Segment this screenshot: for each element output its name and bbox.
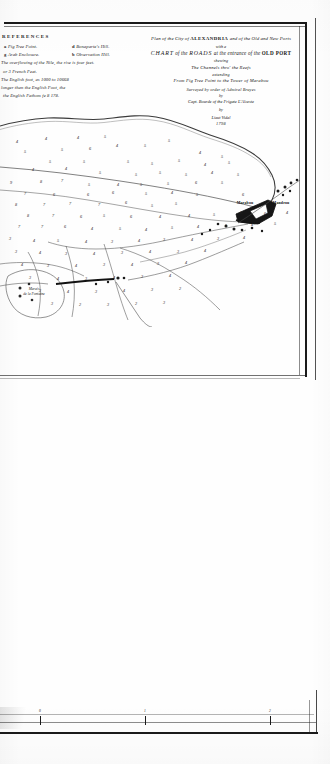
sounding-depth: 5 <box>49 159 51 164</box>
legend-entry-d: dBonaparte's Hill. <box>72 44 140 50</box>
sounding-depth: 4 <box>243 235 245 240</box>
sounding-depth: 4 <box>57 276 59 281</box>
sounding-depth: 7 <box>18 224 20 229</box>
legend-entry-b: bObservation Hill. <box>72 52 140 58</box>
sounding-depth: 6 <box>87 192 89 197</box>
sounding-depth: 3 <box>177 249 179 254</box>
legend-note-english-foot: The English foot, as 1000 to 10668 <box>0 77 140 83</box>
sounding-depth: 4 <box>45 136 47 141</box>
sounding-depth: 3 <box>151 287 153 292</box>
title-extending: extending <box>146 72 296 77</box>
sounding-depth: 6 <box>195 180 197 185</box>
sounding-depth: 3 <box>9 236 11 241</box>
sounding-depth: 2 <box>135 301 137 306</box>
sounding-depth: 7 <box>52 213 54 218</box>
sounding-depth: 3 <box>163 237 165 242</box>
sounding-depth: 4 <box>251 222 253 227</box>
sounding-depth: 4 <box>85 239 87 244</box>
sounding-depth: 5 <box>140 182 142 187</box>
sounding-depth: 5 <box>167 181 169 186</box>
sounding-depth: 5 <box>151 161 153 166</box>
sounding-depth: 4 <box>197 224 199 229</box>
sounding-depth: 4 <box>159 214 161 219</box>
sounding-depth: 5 <box>221 154 223 159</box>
title-chart-at: at the entrance of the <box>212 50 261 56</box>
sounding-depth: 5 <box>145 191 147 196</box>
sounding-depth: 4 <box>131 262 133 267</box>
marabou-tower-label: Marabou <box>237 201 254 205</box>
frame-border-top <box>4 22 306 24</box>
sounding-depth: 6 <box>64 224 66 229</box>
title-roads-word: ROADS <box>189 50 212 56</box>
sounding-depth: 2 <box>79 302 81 307</box>
legend-note-longer-than: longer than the English Foot, the <box>0 85 140 91</box>
sounding-depth: 5 <box>159 170 161 175</box>
title-by: by <box>146 93 296 98</box>
sounding-depth: 5 <box>168 138 170 143</box>
sounding-depth: 5 <box>240 210 242 215</box>
sounding-depth: 4 <box>145 227 147 232</box>
sounding-depth: 3 <box>217 236 219 241</box>
sounding-depth: 6 <box>89 146 91 151</box>
title-with-a: with a <box>146 44 296 49</box>
sounding-depth: 3 <box>29 275 31 280</box>
channel-line-lower <box>0 190 250 222</box>
sounding-depth: 3 <box>85 276 87 281</box>
sounding-depth: 4 <box>169 273 171 278</box>
legend-entry-a: aFig Tree Point. <box>4 44 72 50</box>
sounding-depth: 5 <box>104 134 106 139</box>
frame-border-middle <box>0 375 306 376</box>
sounding-depth: 5 <box>185 172 187 177</box>
sounding-depth: 3 <box>15 249 17 254</box>
sounding-depth: 4 <box>33 238 35 243</box>
sounding-depth: 4 <box>116 143 118 148</box>
title-chart-of: of the <box>174 50 189 56</box>
title-shewing: shewing <box>146 58 296 63</box>
mandrou-label: Mandrou <box>273 201 290 205</box>
town-field-boundaries <box>0 244 220 320</box>
sounding-depth: 4 <box>149 249 151 254</box>
sounding-depth: 4 <box>123 288 125 293</box>
sounding-depth: 5 <box>274 221 276 226</box>
sounding-depth: 6 <box>264 211 266 216</box>
legend-note-french-feet: or 3 French Feet. <box>0 69 140 75</box>
sounding-depth: 7 <box>24 191 26 196</box>
title-chart-line: CHART of the ROADS at the entrance of th… <box>146 50 296 56</box>
legend-key-b: b <box>72 52 75 57</box>
sounding-depth: 4 <box>113 275 115 280</box>
sounding-depth: 6 <box>125 200 127 205</box>
title-channels: The Channels thro' the Reefs <box>146 65 296 70</box>
legend-heading: REFERENCES <box>0 34 140 40</box>
sounding-depth: 5 <box>225 223 227 228</box>
sounding-depth: 5 <box>178 158 180 163</box>
sounding-depth: 3 <box>107 302 109 307</box>
chart-drawing-area: Marabou Mandrou Maraisde la Fontaine 444… <box>0 112 306 327</box>
sounding-depth: 6 <box>112 190 114 195</box>
sounding-depth: 4 <box>138 238 140 243</box>
sounding-depth: 6 <box>53 192 55 197</box>
rock-cluster-south <box>201 223 263 236</box>
sounding-depth: 5 <box>83 159 85 164</box>
sounding-depth: 4 <box>185 260 187 265</box>
legend-label-a: Fig Tree Point. <box>8 44 37 49</box>
sounding-depth: 5 <box>119 226 121 231</box>
sounding-depth: 7 <box>98 202 100 207</box>
title-chart-word: CHART <box>151 50 174 56</box>
sounding-depth: 4 <box>21 262 23 267</box>
sounding-depth: 3 <box>95 289 97 294</box>
sounding-depth: 3 <box>163 300 165 305</box>
sounding-depth: 3 <box>111 239 113 244</box>
coastline-north <box>0 116 275 215</box>
scale-label-1: 1 <box>144 709 146 713</box>
legend-note-fathom: the English Fathom fe 8 178. <box>0 93 140 99</box>
sounding-depth: 3 <box>47 263 49 268</box>
title-city-name: ALEXANDRIA <box>190 36 228 41</box>
sounding-depth: 3 <box>51 301 53 306</box>
map-title-main: Plan of the City of ALEXANDRIA and of th… <box>146 36 296 42</box>
sounding-depth: 3 <box>157 261 159 266</box>
sounding-depth: 4 <box>199 150 201 155</box>
map-scan-page: REFERENCES aFig Tree Point. dBonaparte's… <box>0 0 330 764</box>
references-legend: REFERENCES aFig Tree Point. dBonaparte's… <box>0 34 140 101</box>
sounding-depth: 5 <box>171 225 173 230</box>
legend-key-a: a <box>4 44 6 49</box>
